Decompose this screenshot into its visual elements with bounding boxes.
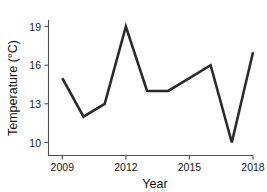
- axis-spines: [49, 20, 254, 156]
- x-tick-label-2012: 2012: [114, 161, 138, 173]
- y-tick-label-10: 10: [29, 137, 41, 149]
- line-chart: 19 16 13 10 2009 2012 2015 2018 Year Tem…: [0, 0, 267, 192]
- x-tick-label-2009: 2009: [51, 161, 75, 173]
- x-tick-label-2015: 2015: [178, 161, 202, 173]
- y-axis-title: Temperature (°C): [6, 40, 20, 136]
- y-tick-label-19: 19: [29, 21, 41, 33]
- x-axis-title: Year: [142, 177, 167, 191]
- y-tick-label-16: 16: [29, 59, 41, 71]
- y-tick-label-13: 13: [29, 98, 41, 110]
- temperature-line: [62, 27, 253, 143]
- x-tick-marks: [62, 156, 253, 160]
- y-tick-marks: [45, 27, 49, 143]
- x-tick-label-2018: 2018: [241, 161, 265, 173]
- chart-canvas: 19 16 13 10 2009 2012 2015 2018 Year Tem…: [0, 0, 267, 192]
